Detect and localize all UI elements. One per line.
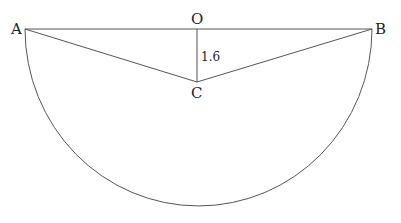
label-C: C (191, 84, 202, 102)
label-B: B (375, 20, 386, 38)
label-A: A (10, 20, 22, 38)
segment-BC (197, 29, 372, 82)
label-O: O (191, 10, 203, 28)
geometry-diagram: A B O C 1.6 (0, 0, 401, 223)
arc-AB (25, 29, 372, 206)
segment-AC (25, 29, 197, 82)
label-OC-length: 1.6 (201, 50, 220, 64)
